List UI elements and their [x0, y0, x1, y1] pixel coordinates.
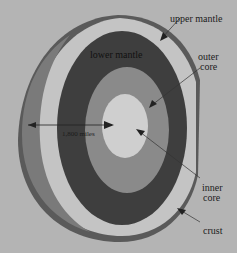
- earth-diagram: upper mantle lower mantle outer core inn…: [0, 0, 237, 253]
- crust-label: crust: [203, 226, 222, 236]
- inner-core-label-line2: core: [203, 193, 220, 203]
- upper-mantle-label: upper mantle: [170, 14, 222, 24]
- distance-label: 1,800 miles: [62, 129, 95, 139]
- outer-core-label-line2: core: [200, 62, 217, 72]
- earth-layers-illustration: [0, 0, 237, 253]
- lower-mantle-label: lower mantle: [90, 50, 142, 60]
